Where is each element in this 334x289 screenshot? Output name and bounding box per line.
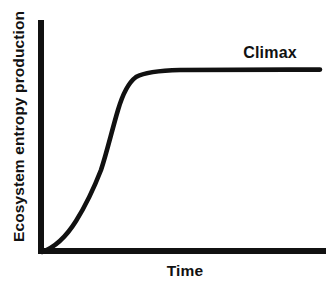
entropy-production-curve xyxy=(42,70,320,252)
entropy-production-figure: Ecosystem entropy production Time Climax xyxy=(0,0,334,289)
y-axis-label: Ecosystem entropy production xyxy=(10,11,27,242)
x-axis-label: Time xyxy=(167,262,204,279)
chart-canvas: Ecosystem entropy production Time Climax xyxy=(0,0,334,289)
climax-annotation-label: Climax xyxy=(243,44,297,61)
